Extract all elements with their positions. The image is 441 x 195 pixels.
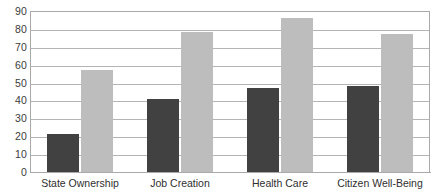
y-axis-tick-label: 0 bbox=[0, 167, 27, 178]
bar-chart: 0102030405060708090 State OwnershipJob C… bbox=[0, 0, 441, 195]
y-axis-tick-label: 70 bbox=[0, 42, 27, 53]
y-axis-tick-label: 40 bbox=[0, 95, 27, 106]
y-axis: 0102030405060708090 bbox=[0, 0, 27, 195]
y-axis-tick-label: 20 bbox=[0, 131, 27, 142]
x-axis-line bbox=[30, 172, 431, 173]
y-axis-tick-label: 50 bbox=[0, 77, 27, 88]
category-label: Health Care bbox=[252, 176, 308, 190]
y-axis-tick-label: 90 bbox=[0, 6, 27, 17]
bar-group bbox=[130, 0, 230, 172]
y-axis-tick-label: 10 bbox=[0, 149, 27, 160]
category-label: Citizen Well-Being bbox=[337, 176, 423, 190]
bar-group bbox=[230, 0, 330, 172]
bar bbox=[181, 32, 213, 172]
y-axis-tick-label: 80 bbox=[0, 24, 27, 35]
bar bbox=[247, 88, 279, 172]
bar bbox=[147, 99, 179, 172]
y-axis-tick-label: 60 bbox=[0, 59, 27, 70]
bar bbox=[81, 70, 113, 172]
y-axis-tick-label: 30 bbox=[0, 113, 27, 124]
bar-group bbox=[30, 0, 130, 172]
category-label: State Ownership bbox=[41, 176, 119, 190]
bar bbox=[347, 86, 379, 172]
bar bbox=[281, 18, 313, 172]
bars-layer bbox=[30, 0, 430, 172]
category-label: Job Creation bbox=[150, 176, 210, 190]
bar-group bbox=[330, 0, 430, 172]
bar bbox=[47, 134, 79, 172]
bar bbox=[381, 34, 413, 172]
x-axis-category-labels: State OwnershipJob CreationHealth CareCi… bbox=[30, 176, 430, 195]
